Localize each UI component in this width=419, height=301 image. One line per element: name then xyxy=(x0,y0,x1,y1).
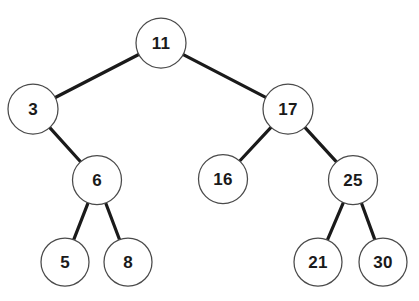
nodes-group: 1131761625582130 xyxy=(8,18,407,286)
node-label-25: 25 xyxy=(343,171,362,190)
tree-edge-6-8 xyxy=(105,202,120,241)
node-label-30: 30 xyxy=(373,253,392,272)
tree-edge-3-6 xyxy=(49,127,81,163)
node-label-6: 6 xyxy=(92,171,102,190)
tree-edge-25-30 xyxy=(361,202,375,240)
tree-node-5[interactable]: 5 xyxy=(41,238,89,286)
tree-edge-17-25 xyxy=(304,127,337,163)
tree-node-30[interactable]: 30 xyxy=(359,238,407,286)
node-label-3: 3 xyxy=(28,100,38,119)
tree-node-25[interactable]: 25 xyxy=(329,156,378,205)
node-label-8: 8 xyxy=(123,253,133,272)
node-label-11: 11 xyxy=(152,34,170,53)
node-label-17: 17 xyxy=(278,100,297,119)
tree-node-11[interactable]: 11 xyxy=(136,18,186,68)
node-label-21: 21 xyxy=(308,253,327,272)
tree-edge-6-5 xyxy=(73,202,88,241)
tree-node-8[interactable]: 8 xyxy=(104,238,152,286)
tree-node-16[interactable]: 16 xyxy=(199,155,248,204)
tree-node-3[interactable]: 3 xyxy=(8,84,58,134)
node-label-16: 16 xyxy=(213,170,232,189)
edges-group xyxy=(49,54,375,241)
tree-edge-17-16 xyxy=(239,127,272,162)
node-label-5: 5 xyxy=(60,253,70,272)
tree-node-6[interactable]: 6 xyxy=(73,156,122,205)
tree-edge-25-21 xyxy=(327,202,344,241)
tree-edge-11-3 xyxy=(54,54,139,98)
tree-edge-11-17 xyxy=(182,54,266,98)
tree-node-17[interactable]: 17 xyxy=(263,84,313,134)
binary-tree-diagram: 1131761625582130 xyxy=(0,0,419,301)
tree-canvas: 1131761625582130 xyxy=(0,0,419,301)
tree-node-21[interactable]: 21 xyxy=(294,238,342,286)
